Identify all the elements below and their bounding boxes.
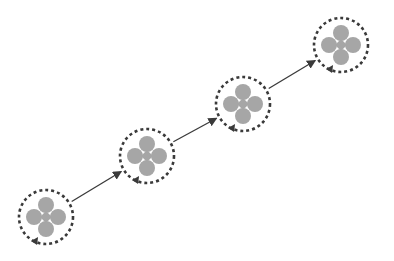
petal-circle — [38, 197, 54, 213]
rotation-arrow-icon — [228, 124, 235, 132]
petal-circle — [50, 209, 66, 225]
diamond-core — [335, 39, 347, 51]
diamond-core — [40, 211, 52, 223]
petal-circle — [235, 84, 251, 100]
connector-arrow-2 — [173, 118, 216, 141]
cluster-node-1 — [19, 190, 73, 245]
rotation-arrow-icon — [132, 176, 139, 184]
connector-layer — [72, 60, 316, 201]
petal-circle — [139, 136, 155, 152]
connector-arrow-3 — [269, 60, 316, 88]
petal-circle — [345, 37, 361, 53]
petal-circle — [235, 108, 251, 124]
petal-circle — [321, 37, 337, 53]
cluster-node-2 — [120, 129, 174, 184]
node-chain-diagram — [0, 0, 394, 261]
rotation-arrow-icon — [326, 65, 333, 73]
petal-circle — [223, 96, 239, 112]
connector-arrow-1 — [72, 172, 122, 202]
cluster-node-4 — [314, 18, 368, 73]
petal-circle — [127, 148, 143, 164]
diamond-core — [141, 150, 153, 162]
petal-circle — [151, 148, 167, 164]
petal-circle — [139, 160, 155, 176]
petal-circle — [26, 209, 42, 225]
diamond-core — [237, 98, 249, 110]
petal-circle — [333, 25, 349, 41]
petal-circle — [333, 49, 349, 65]
petal-circle — [247, 96, 263, 112]
petal-circle — [38, 221, 54, 237]
node-layer — [19, 18, 368, 245]
cluster-node-3 — [216, 77, 270, 132]
rotation-arrow-icon — [31, 237, 38, 245]
